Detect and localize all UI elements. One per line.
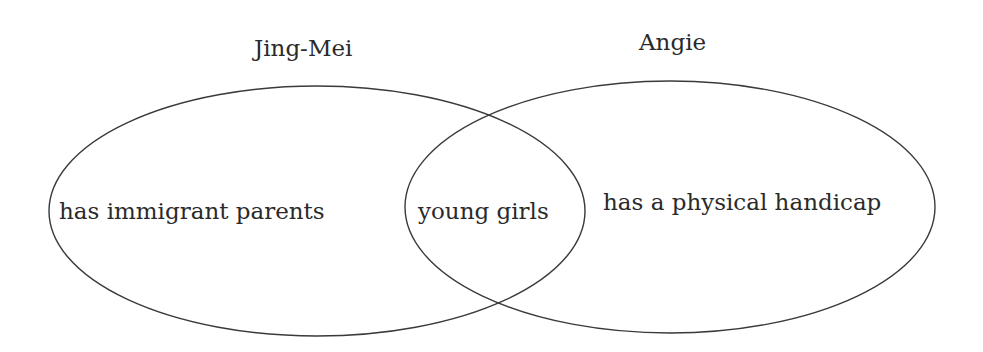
set-label-jing-mei: Jing-Mei — [254, 37, 352, 60]
intersection-trait: young girls — [418, 200, 549, 223]
venn-diagram — [0, 0, 983, 352]
jing-mei-unique-trait: has immigrant parents — [59, 200, 325, 223]
set-label-angie: Angie — [639, 31, 706, 54]
angie-unique-trait: has a physical handicap — [603, 191, 881, 214]
